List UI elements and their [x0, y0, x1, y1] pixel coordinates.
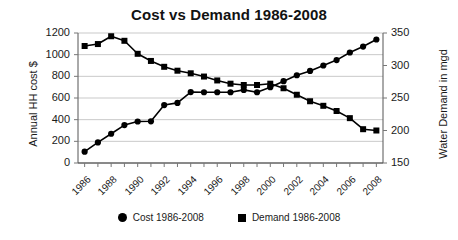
- axis-lines: [74, 33, 387, 167]
- legend-item-demand[interactable]: Demand 1986-2008: [238, 212, 340, 223]
- square-marker-icon: [238, 214, 246, 222]
- grid-lines: [78, 33, 383, 163]
- series-demand: [82, 33, 380, 133]
- chart-legend: Cost 1986-2008Demand 1986-2008: [0, 212, 458, 223]
- legend-item-cost[interactable]: Cost 1986-2008: [118, 212, 204, 223]
- legend-label: Cost 1986-2008: [133, 212, 204, 223]
- chart-container: Cost vs Demand 1986-2008 Annual HH cost …: [0, 0, 458, 240]
- series-cost: [82, 36, 380, 154]
- circle-marker-icon: [118, 213, 127, 222]
- plot-area: [0, 0, 458, 240]
- legend-label: Demand 1986-2008: [252, 212, 340, 223]
